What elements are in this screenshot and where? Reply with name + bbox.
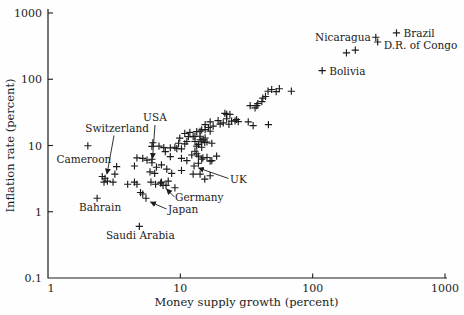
data-point-marker: [124, 181, 131, 188]
country-label-uk: UK: [230, 173, 247, 185]
data-point-marker: [151, 170, 158, 177]
data-point-marker-cameroon: [84, 142, 91, 149]
data-point-marker-nicaragua: [372, 34, 379, 41]
x-tick-label: 10: [173, 282, 187, 295]
country-label-brazil: Brazil: [403, 27, 435, 39]
country-label-nicaragua: Nicaragua: [315, 31, 371, 43]
data-point-marker: [168, 170, 175, 177]
data-point-marker: [176, 135, 183, 142]
data-point-marker: [352, 47, 359, 54]
inflation-vs-money-growth-scatter-chart: 11010010000.11101001000Money supply grow…: [0, 0, 464, 315]
data-point-marker: [201, 176, 208, 183]
annotation-arrow-uk: [199, 168, 229, 179]
data-point-marker: [155, 142, 162, 149]
data-point-marker: [111, 171, 118, 178]
x-tick-label: 1: [48, 282, 55, 295]
data-point-marker: [171, 144, 178, 151]
data-point-marker: [186, 129, 193, 136]
data-point-marker: [231, 117, 238, 124]
data-point-marker: [343, 49, 350, 56]
data-point-marker: [139, 155, 146, 162]
country-label-switzerland: Switzerland: [85, 122, 149, 134]
data-point-marker: [245, 118, 252, 125]
data-point-marker: [250, 122, 257, 129]
x-axis-title: Money supply growth (percent): [154, 295, 338, 309]
data-point-marker-bolivia: [319, 67, 326, 74]
data-point-marker: [188, 151, 195, 158]
data-point-marker: [258, 98, 265, 105]
data-point-marker: [167, 144, 174, 151]
data-point-marker: [208, 140, 215, 147]
y-tick-label: 100: [21, 73, 42, 86]
annotation-arrow-japan: [151, 202, 167, 209]
data-point-marker: [221, 110, 228, 117]
data-point-marker: [146, 168, 153, 175]
y-tick-label: 0.1: [25, 272, 43, 285]
country-label-bolivia: Bolivia: [329, 65, 365, 77]
y-tick-label: 10: [28, 140, 42, 153]
data-point-marker: [149, 139, 156, 146]
data-point-marker: [208, 157, 215, 164]
data-point-marker: [181, 130, 188, 137]
y-tick-label: 1000: [14, 7, 42, 20]
figure-money-growth-inflation: 11010010000.11101001000Money supply grow…: [0, 0, 464, 315]
country-label-bahrain: Bahrain: [79, 201, 121, 213]
data-point-marker: [288, 88, 295, 95]
data-point-marker: [226, 111, 233, 118]
data-point-marker: [163, 166, 170, 173]
country-label-d-r-of-congo: D.R. of Congo: [384, 39, 458, 51]
data-point-marker: [171, 184, 178, 191]
x-tick-label: 100: [302, 282, 323, 295]
data-point-marker: [265, 121, 272, 128]
y-tick-label: 1: [35, 206, 42, 219]
data-point-marker-d-r-of-congo: [374, 38, 381, 45]
data-point-marker: [196, 171, 203, 178]
data-point-marker: [113, 163, 120, 170]
data-point-marker: [213, 153, 220, 160]
country-label-usa: USA: [143, 111, 167, 123]
data-point-marker: [178, 167, 185, 174]
country-label-japan: Japan: [167, 203, 198, 215]
annotation-arrow-germany: [167, 189, 175, 197]
data-point-marker: [162, 148, 169, 155]
data-point-marker: [100, 179, 107, 186]
data-point-marker: [167, 153, 174, 160]
data-point-marker-brazil: [393, 29, 400, 36]
country-label-germany: Germany: [175, 191, 224, 203]
x-tick-label: 1000: [431, 282, 459, 295]
data-point-marker: [160, 144, 167, 151]
country-label-saudi-arabia: Saudi Arabia: [106, 229, 175, 241]
data-point-marker: [148, 143, 155, 150]
data-point-marker: [109, 179, 116, 186]
data-point-marker: [193, 142, 200, 149]
data-point-marker: [190, 171, 197, 178]
data-point-marker: [203, 154, 210, 161]
y-axis-title: Inflation rate (percent): [3, 78, 17, 212]
data-point-marker-japan: [142, 195, 149, 202]
data-point-marker: [131, 162, 138, 169]
country-label-cameroon: Cameroon: [56, 153, 111, 165]
data-point-marker: [193, 128, 200, 135]
